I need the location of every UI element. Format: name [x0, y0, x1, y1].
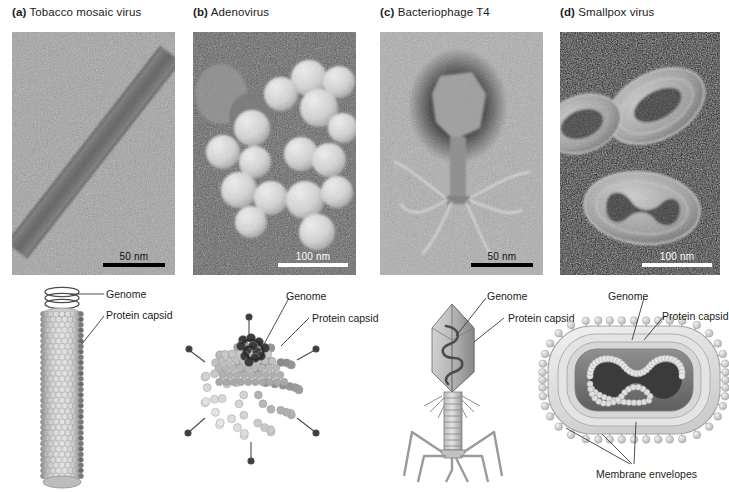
panel-d-scalebar-line — [642, 263, 712, 267]
panel-c-micrograph-image — [380, 32, 543, 275]
label-genome-b: Genome — [286, 290, 326, 302]
label-protein-capsid-a: Protein capsid — [106, 309, 173, 321]
label-membrane-envelopes-d: Membrane envelopes — [596, 468, 697, 480]
panel-c-scalebar: 50 nm — [471, 251, 533, 267]
tmv-protein-capsid — [40, 311, 83, 488]
panel-c-title-text: Bacteriophage T4 — [398, 6, 490, 18]
panel-b-scalebar-line — [278, 263, 348, 267]
tmv-genome-helix — [45, 287, 79, 308]
label-genome-c: Genome — [487, 290, 527, 302]
panel-d-scalebar: 100 nm — [642, 251, 712, 267]
panel-d-title: (d) Smallpox virus — [560, 6, 654, 18]
panel-b-scalebar-label: 100 nm — [296, 251, 331, 263]
panel-b-diagram — [185, 300, 370, 470]
label-genome-d: Genome — [608, 290, 648, 302]
panel-b-micrograph: 100 nm — [193, 32, 356, 275]
label-protein-capsid-d: Protein capsid — [662, 310, 729, 322]
panel-a-micrograph-image — [12, 32, 175, 275]
panel-d-letter: (d) — [560, 6, 575, 18]
panel-a-micrograph: 50 nm — [12, 32, 175, 275]
t4-tail-sheath — [444, 392, 462, 450]
panel-c-scalebar-line — [471, 263, 533, 267]
panel-a-title-text: Tobacco mosaic virus — [29, 6, 141, 18]
panel-b-title-text: Adenovirus — [211, 6, 270, 18]
panel-c-scalebar-label: 50 nm — [488, 251, 517, 263]
panel-a-scalebar-label: 50 nm — [120, 251, 149, 263]
panel-d-micrograph: 100 nm — [560, 32, 720, 275]
panel-d-scalebar-label: 100 nm — [660, 251, 695, 263]
panel-a-scalebar: 50 nm — [103, 251, 165, 267]
panel-c-title: (c) Bacteriophage T4 — [380, 6, 490, 18]
panel-d-diagram — [540, 316, 728, 446]
panel-b-scalebar: 100 nm — [278, 251, 348, 267]
panel-d-micrograph-image — [560, 32, 720, 275]
panel-c-micrograph: 50 nm — [380, 32, 543, 275]
panel-d-title-text: Smallpox virus — [578, 6, 654, 18]
label-genome-a: Genome — [106, 288, 146, 300]
panel-b-title: (b) Adenovirus — [193, 6, 269, 18]
panel-b-micrograph-image — [193, 32, 356, 275]
t4-head-capsid — [432, 304, 474, 392]
panel-c-letter: (c) — [380, 6, 394, 18]
label-protein-capsid-b: Protein capsid — [312, 312, 379, 324]
panel-a-letter: (a) — [12, 6, 26, 18]
panel-a-scalebar-line — [103, 263, 165, 267]
panel-b-letter: (b) — [193, 6, 208, 18]
panel-a-title: (a) Tobacco mosaic virus — [12, 6, 141, 18]
